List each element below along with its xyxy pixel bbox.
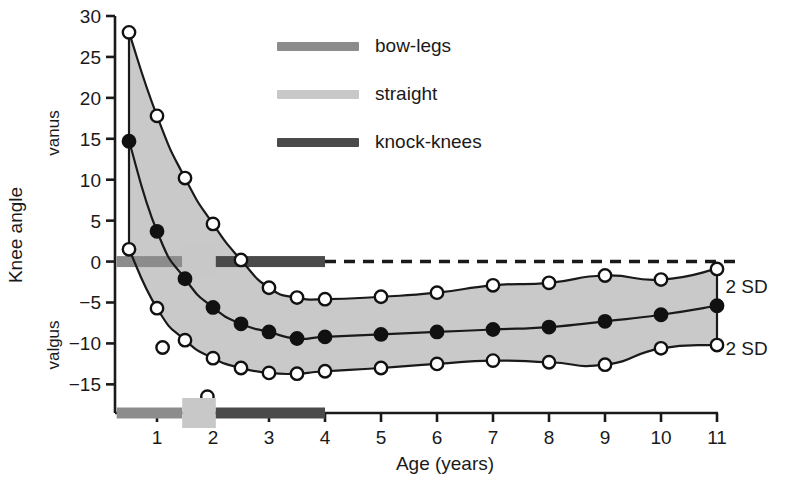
x-tick-label: 7 — [488, 427, 499, 448]
data-point-open — [207, 218, 219, 230]
x-tick-label: 6 — [432, 427, 443, 448]
data-point-open — [156, 341, 168, 353]
x-tick-label: 4 — [320, 427, 331, 448]
data-point-open — [235, 362, 247, 374]
y-tick-label: 20 — [80, 88, 101, 109]
legend-swatch-bow-legs — [277, 42, 359, 51]
x-axis-tick-labels: 1234567891011 — [152, 427, 727, 448]
data-point-open — [319, 293, 331, 305]
data-point-open — [487, 354, 499, 366]
data-point-open — [291, 368, 303, 380]
data-point-open — [235, 254, 247, 266]
data-point-filled — [711, 300, 723, 312]
data-point-filled — [207, 301, 219, 313]
x-tick-label: 1 — [152, 427, 163, 448]
data-point-open — [319, 365, 331, 377]
legend-label-straight: straight — [375, 83, 438, 104]
data-point-open — [151, 110, 163, 122]
data-point-open — [179, 172, 191, 184]
data-point-open — [263, 282, 275, 294]
data-point-open — [655, 342, 667, 354]
y-axis-label-varus: vanus — [44, 110, 63, 155]
data-point-open — [207, 352, 219, 364]
x-tick-label: 5 — [376, 427, 387, 448]
data-point-open — [179, 334, 191, 346]
status-bar-bow-legs-bottom — [117, 408, 183, 419]
data-point-open — [123, 26, 135, 38]
knee-angle-growth-chart: 302520151050−5−10−15 1234567891011 Age (… — [0, 0, 791, 482]
data-point-open — [263, 367, 275, 379]
status-bar-straight-bottom — [182, 398, 216, 428]
y-axis-label-valgus: valgus — [44, 320, 63, 369]
x-tick-label: 10 — [650, 427, 671, 448]
data-point-open — [151, 302, 163, 314]
y-tick-label: −15 — [69, 374, 101, 395]
legend-swatch-knock-knees — [277, 138, 359, 147]
data-point-open — [375, 291, 387, 303]
status-bar-knock-knees-bottom — [216, 408, 325, 419]
chart-svg: 302520151050−5−10−15 1234567891011 Age (… — [0, 0, 791, 482]
x-axis-title: Age (years) — [396, 453, 494, 474]
data-point-filled — [179, 273, 191, 285]
y-tick-label: 30 — [80, 6, 101, 27]
legend: bow-legs straight knock-knees — [277, 35, 482, 152]
y-tick-label: 5 — [90, 211, 101, 232]
data-point-filled — [543, 321, 555, 333]
data-point-filled — [487, 323, 499, 335]
x-tick-label: 11 — [707, 427, 727, 448]
data-point-filled — [655, 309, 667, 321]
y-axis-title: Knee angle — [5, 187, 26, 283]
data-point-filled — [123, 135, 135, 147]
data-point-filled — [151, 225, 163, 237]
x-tick-label: 2 — [208, 427, 219, 448]
data-point-open — [599, 359, 611, 371]
data-point-open — [291, 291, 303, 303]
data-point-open — [375, 362, 387, 374]
y-tick-label: −10 — [69, 333, 101, 354]
x-tick-label: 3 — [264, 427, 275, 448]
data-point-filled — [263, 326, 275, 338]
y-tick-label: 15 — [80, 129, 101, 150]
legend-label-knock-knees: knock-knees — [375, 131, 482, 152]
x-tick-label: 8 — [544, 427, 555, 448]
data-point-filled — [291, 332, 303, 344]
data-point-open — [487, 279, 499, 291]
y-axis-ticks — [106, 16, 115, 384]
data-point-filled — [375, 328, 387, 340]
legend-label-bow-legs: bow-legs — [375, 35, 451, 56]
data-point-open — [711, 263, 723, 275]
y-axis-tick-labels: 302520151050−5−10−15 — [69, 6, 101, 395]
data-point-open — [655, 273, 667, 285]
data-point-open — [431, 358, 443, 370]
data-point-filled — [235, 318, 247, 330]
status-bar-bottom — [117, 398, 325, 428]
y-tick-label: 25 — [80, 47, 101, 68]
status-bar-knock-knees-top — [216, 256, 325, 267]
annotation-upper-2sd: 2 SD — [725, 276, 767, 297]
y-tick-label: −5 — [79, 292, 101, 313]
y-tick-label: 0 — [90, 252, 101, 273]
legend-swatch-straight — [277, 90, 359, 99]
x-tick-label: 9 — [600, 427, 611, 448]
data-point-open — [123, 243, 135, 255]
data-point-open — [599, 269, 611, 281]
data-point-open — [543, 277, 555, 289]
data-point-filled — [319, 331, 331, 343]
y-tick-label: 10 — [80, 170, 101, 191]
data-point-open — [711, 339, 723, 351]
data-point-filled — [599, 315, 611, 327]
data-point-open — [543, 356, 555, 368]
data-point-filled — [431, 326, 443, 338]
annotation-lower-2sd: 2 SD — [725, 338, 767, 359]
data-point-open — [431, 286, 443, 298]
